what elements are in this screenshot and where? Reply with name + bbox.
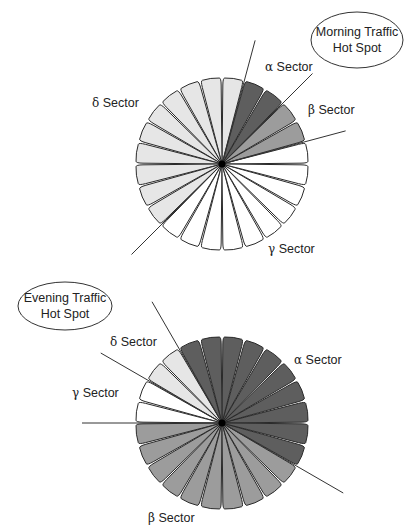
evening-sector-wheel xyxy=(82,302,343,509)
delta-symbol: δ xyxy=(110,335,117,349)
evening-center-dot xyxy=(219,420,226,427)
evening-gamma-label: γ Sector xyxy=(72,386,119,400)
delta-sector-text: Sector xyxy=(121,335,157,349)
evening-hotspot-line2: Hot Spot xyxy=(41,307,90,321)
alpha-sector-text: Sector xyxy=(306,353,342,367)
morning-hotspot-line2: Hot Spot xyxy=(333,41,382,55)
evening-hotspot-ellipse xyxy=(18,282,112,330)
alpha-sector-text: Sector xyxy=(277,60,313,74)
beta-sector-text: Sector xyxy=(318,103,354,117)
gamma-sector-text: Sector xyxy=(83,386,119,400)
delta-symbol: δ xyxy=(92,96,99,110)
delta-sector-text: Sector xyxy=(103,96,139,110)
beta-sector-text: Sector xyxy=(158,511,194,525)
morning-delta-label: δ Sector xyxy=(92,96,139,110)
gamma-symbol: γ xyxy=(268,242,275,256)
morning-gamma-label: γ Sector xyxy=(268,242,315,256)
morning-hotspot-line1: Morning Traffic xyxy=(316,25,398,39)
morning-center-dot xyxy=(219,161,226,168)
morning-sector-wheel xyxy=(131,40,345,254)
morning-hotspot-callout: Morning Traffic Hot Spot xyxy=(311,12,403,68)
evening-hotspot-line1: Evening Traffic xyxy=(24,291,106,305)
morning-alpha-label: α Sector xyxy=(265,60,313,74)
evening-alpha-label: α Sector xyxy=(294,353,342,367)
gamma-symbol: γ xyxy=(72,386,79,400)
evening-hotspot-callout: Evening Traffic Hot Spot xyxy=(18,282,112,330)
beta-symbol: β xyxy=(308,103,315,117)
beta-symbol: β xyxy=(148,511,155,525)
alpha-symbol: α xyxy=(294,353,302,367)
evening-delta-label: δ Sector xyxy=(110,335,157,349)
alpha-symbol: α xyxy=(265,60,273,74)
evening-beta-label: β Sector xyxy=(148,511,195,525)
gamma-sector-text: Sector xyxy=(279,242,315,256)
diagram-canvas: Morning Traffic Hot Spot α Sector β Sect… xyxy=(0,0,418,532)
morning-beta-label: β Sector xyxy=(308,103,355,117)
morning-hotspot-ellipse xyxy=(311,12,403,68)
